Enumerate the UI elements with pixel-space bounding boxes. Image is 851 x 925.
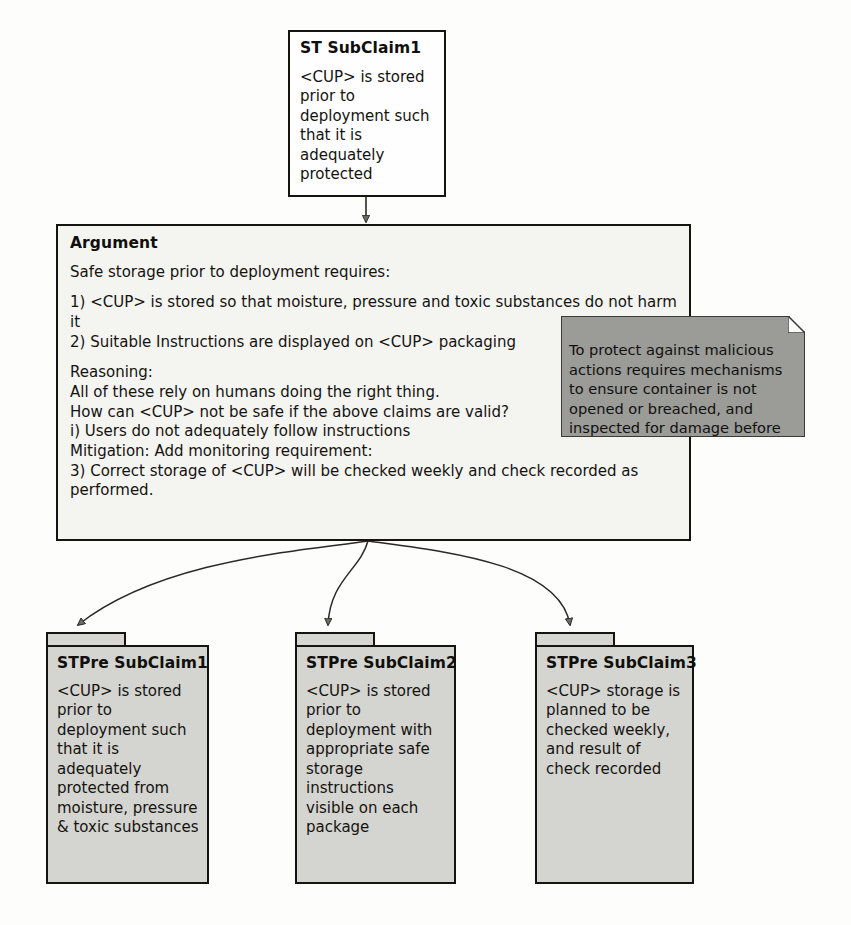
node-argument-intro: Safe storage prior to deployment require…	[70, 263, 677, 283]
diagram-canvas: ST SubClaim1 <CUP> is stored prior to de…	[0, 0, 851, 925]
node-stpre-subclaim2-body: <CUP> is stored prior to deployment with…	[306, 682, 446, 838]
package-body: STPre SubClaim1 <CUP> is stored prior to…	[46, 645, 209, 884]
edge-argument-to-stpre-subclaim3	[368, 541, 570, 625]
package-body: STPre SubClaim2 <CUP> is stored prior to…	[295, 645, 456, 884]
comment-note[interactable]: To protect against malicious actions req…	[561, 316, 805, 437]
node-stpre-subclaim3-body: <CUP> storage is planned to be checked w…	[546, 682, 684, 780]
argument-spacer-1	[70, 282, 677, 293]
node-st-subclaim1-title: ST SubClaim1	[300, 40, 435, 58]
node-stpre-subclaim1-body: <CUP> is stored prior to deployment such…	[57, 682, 199, 838]
node-argument-title: Argument	[70, 235, 677, 253]
node-stpre-subclaim1-title: STPre SubClaim1	[57, 655, 199, 673]
node-st-subclaim1[interactable]: ST SubClaim1 <CUP> is stored prior to de…	[288, 30, 446, 197]
node-stpre-subclaim2[interactable]: STPre SubClaim2 <CUP> is stored prior to…	[295, 632, 456, 884]
node-stpre-subclaim2-title: STPre SubClaim2	[306, 655, 446, 673]
edge-argument-to-stpre-subclaim1	[78, 541, 368, 625]
node-st-subclaim1-body: <CUP> is stored prior to deployment such…	[300, 68, 435, 185]
edge-argument-to-stpre-subclaim2	[328, 541, 368, 625]
node-stpre-subclaim3-title: STPre SubClaim3	[546, 655, 684, 673]
node-stpre-subclaim3[interactable]: STPre SubClaim3 <CUP> storage is planned…	[535, 632, 694, 884]
node-stpre-subclaim1[interactable]: STPre SubClaim1 <CUP> is stored prior to…	[46, 632, 209, 884]
package-body: STPre SubClaim3 <CUP> storage is planned…	[535, 645, 694, 884]
